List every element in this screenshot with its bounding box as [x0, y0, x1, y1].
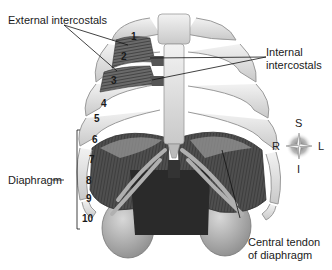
rib-number-8: 8 [86, 175, 92, 186]
compass-right: R [272, 140, 280, 152]
rib-number-2: 2 [121, 51, 127, 62]
label-diaphragm: Diaphragm [8, 174, 62, 187]
anatomy-figure: External intercostals Internal intercost… [0, 0, 332, 270]
label-external-intercostals: External intercostals [8, 14, 107, 27]
compass-superior: S [295, 117, 302, 129]
rib-number-6: 6 [92, 134, 98, 145]
internal-intercostals-muscle [150, 56, 164, 86]
rib-number-4: 4 [101, 98, 107, 109]
rib-number-5: 5 [94, 113, 100, 124]
label-central-tendon-line1: Central tendon [248, 236, 320, 249]
rib-number-1: 1 [131, 31, 137, 42]
label-central-tendon-line2: of diaphragm [248, 249, 312, 262]
label-internal-intercostals-line1: Internal [266, 46, 303, 59]
label-internal-intercostals-line2: intercostals [266, 59, 322, 72]
rib-number-9: 9 [86, 193, 92, 204]
compass-inferior: I [297, 163, 300, 175]
rib-number-10: 10 [82, 213, 93, 224]
compass-left: L [318, 140, 324, 152]
rib-number-7: 7 [89, 154, 95, 165]
orientation-compass-icon [286, 133, 312, 159]
thoracic-cage-illustration [0, 0, 332, 270]
rib-number-3: 3 [111, 75, 117, 86]
